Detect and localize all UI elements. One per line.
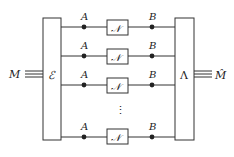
encoder-label: ℰ bbox=[48, 69, 56, 82]
output-system-dot bbox=[150, 25, 155, 30]
channel-diagram: M ℰ Λ M̂ A B 𝒩 A B 𝒩 A B bbox=[0, 0, 234, 157]
input-system-label: A bbox=[80, 121, 88, 132]
input-system-dot bbox=[82, 135, 87, 140]
input-system-dot bbox=[82, 83, 87, 88]
output-message-wire bbox=[194, 71, 212, 77]
input-system-label: A bbox=[80, 11, 88, 22]
output-system-dot bbox=[150, 54, 155, 59]
input-system-label: A bbox=[80, 40, 88, 51]
input-system-label: A bbox=[80, 69, 88, 80]
input-system-dot bbox=[82, 54, 87, 59]
channel-row-3: A B 𝒩 bbox=[61, 69, 175, 93]
output-system-label: B bbox=[148, 121, 156, 132]
decoder-label: Λ bbox=[179, 69, 189, 82]
input-message-wire bbox=[25, 71, 43, 77]
output-system-dot bbox=[150, 135, 155, 140]
output-system-dot bbox=[150, 83, 155, 88]
channel-row-4: A B 𝒩 bbox=[61, 121, 175, 144]
input-message-label: M bbox=[8, 68, 21, 81]
channel-row-1: A B 𝒩 bbox=[61, 11, 175, 35]
output-message-label: M̂ bbox=[214, 69, 227, 82]
channel-row-2: A B 𝒩 bbox=[61, 40, 175, 64]
output-system-label: B bbox=[148, 11, 156, 22]
input-system-dot bbox=[82, 25, 87, 30]
output-system-label: B bbox=[148, 40, 156, 51]
ellipsis-icon: ⋮ bbox=[115, 104, 126, 117]
output-system-label: B bbox=[148, 69, 156, 80]
